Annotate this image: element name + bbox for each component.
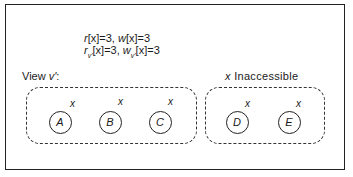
view-label: View v': [22,70,59,82]
write-count-value: [x]=3 [126,32,150,44]
node-a-var: x [70,98,75,109]
equation-global: r[x]=3, w[x]=3 [84,33,150,44]
equation-view: rv'[x]=3, wv'[x]=3 [84,45,160,61]
write-count-symbol: w [118,32,126,44]
node-e: E [278,111,301,134]
view-write-value: [x]=3 [136,44,160,56]
node-label: D [233,116,241,128]
node-b-var: x [118,96,123,107]
node-label: E [285,116,292,128]
node-c: C [149,111,172,134]
view-label-suffix: : [56,70,59,82]
inaccessible-label: x Inaccessible [225,70,298,82]
node-d-var: x [245,98,250,109]
node-e-var: x [296,98,301,109]
node-label: C [156,116,164,128]
read-count-value: [x]=3, [88,32,115,44]
inaccessible-group-box [205,87,325,144]
view-write-symbol: w [123,44,131,56]
node-label: A [56,116,63,128]
inaccessible-text: Inaccessible [231,70,299,82]
node-c-var: x [168,96,173,107]
view-read-value: [x]=3, [93,44,120,56]
node-d: D [226,111,249,134]
node-a: A [49,111,72,134]
node-label: B [106,116,113,128]
node-b: B [99,111,122,134]
view-label-prefix: View [22,70,49,82]
